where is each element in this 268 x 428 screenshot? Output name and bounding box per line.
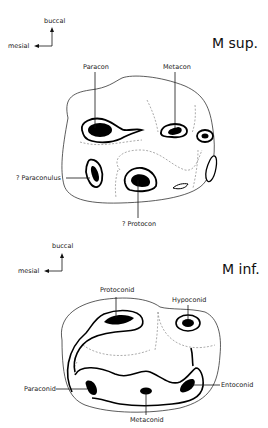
entoconid-label: Entoconid: [221, 381, 253, 389]
groove-line: [83, 345, 150, 355]
buccal-arrowhead-icon: [50, 27, 54, 32]
protoconid-core: [104, 315, 134, 325]
distal-style-cusp: [206, 156, 217, 182]
groove-line: [117, 150, 202, 170]
paraconulus-label: ? Paraconulus: [16, 174, 61, 182]
entoconid-crest: [191, 348, 193, 366]
groove-line: [155, 312, 158, 350]
paracon-core: [88, 123, 112, 137]
buccal-label: buccal: [52, 242, 73, 250]
protocon-label: ? Protocon: [122, 220, 156, 228]
protoconid-label: Protoconid: [100, 286, 134, 294]
metacon-label: Metacon: [163, 63, 191, 71]
distal-cusp-core: [202, 134, 209, 139]
small-lingual-cusp: [173, 184, 188, 189]
molar-diagram: buccal mesial M sup.: [0, 0, 268, 428]
paraconid-core: [86, 381, 97, 395]
upper-molar-figure: buccal mesial M sup.: [8, 17, 258, 228]
protoconid-ridge: [68, 311, 143, 392]
metaconid-label: Metaconid: [130, 416, 164, 424]
groove-line: [192, 105, 195, 133]
groove-line: [115, 170, 118, 198]
buccal-label: buccal: [44, 17, 65, 25]
lower-molar-title: M inf.: [222, 261, 260, 277]
hypoconid-core: [182, 319, 194, 327]
lower-molar-figure: buccal mesial M inf. Protoconid Hypoconi…: [18, 242, 260, 424]
mesial-label: mesial: [18, 267, 40, 275]
mesial-arrowhead-icon: [44, 269, 49, 273]
hypoconid-label: Hypoconid: [172, 296, 206, 304]
paraconid-label: Paraconid: [24, 385, 56, 393]
buccal-arrowhead-icon: [60, 253, 64, 258]
orientation-indicator-lower: buccal mesial: [18, 242, 73, 275]
mesial-arrowhead-icon: [34, 44, 39, 48]
groove-line: [193, 150, 198, 188]
paracon-label: Paracon: [83, 63, 109, 71]
mesial-label: mesial: [8, 42, 30, 50]
orientation-indicator-upper: buccal mesial: [8, 17, 65, 50]
groove-line: [147, 100, 158, 132]
upper-molar-title: M sup.: [212, 35, 258, 51]
